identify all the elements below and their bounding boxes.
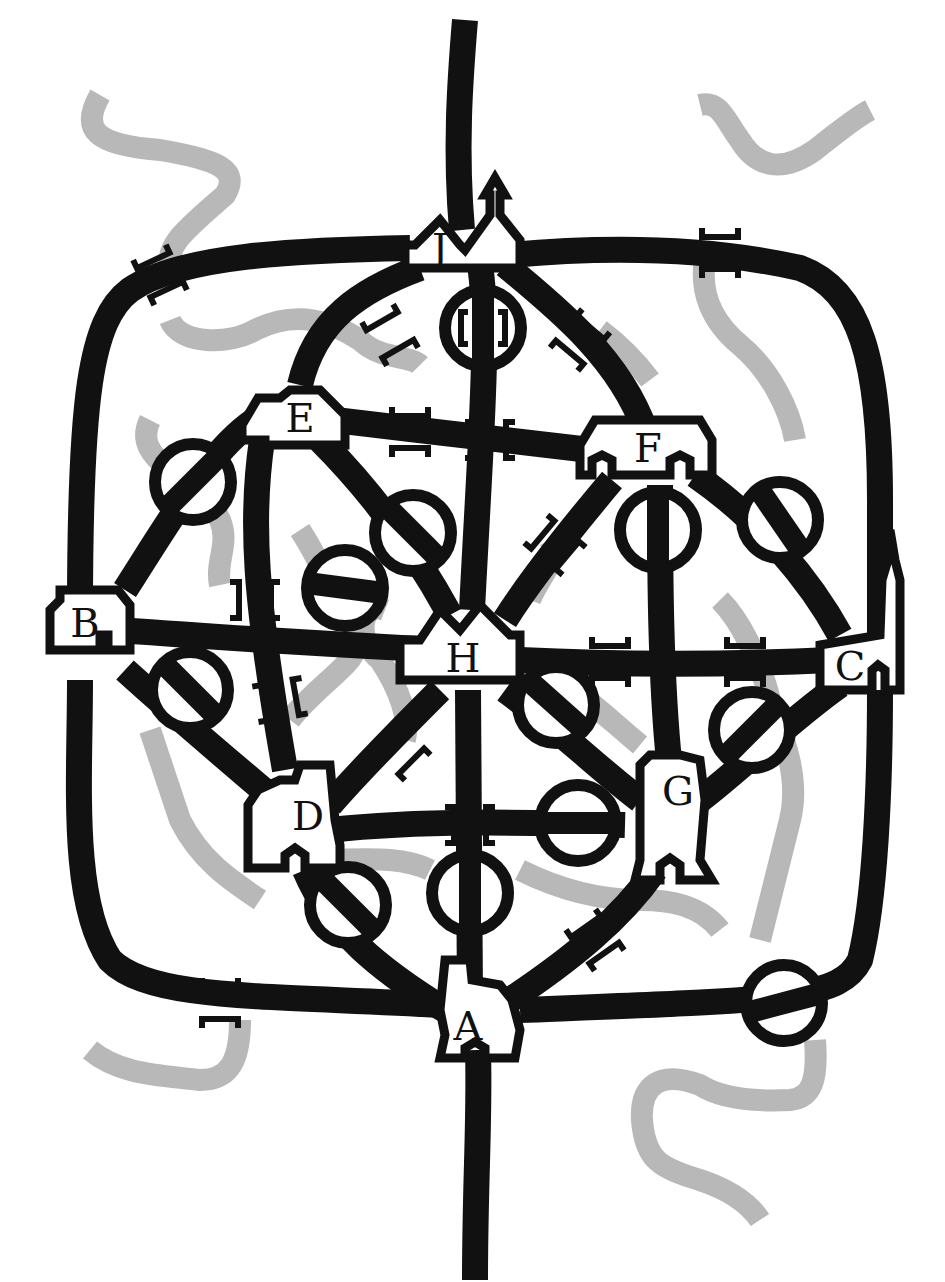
town-label-B: B [70, 600, 99, 646]
town-label-C: C [835, 643, 866, 689]
town-F: F [580, 420, 712, 475]
town-B: B [50, 590, 130, 650]
town-G: G [635, 755, 712, 880]
town-E: E [242, 390, 345, 445]
town-label-H: H [446, 635, 481, 681]
town-label-A: A [453, 1003, 484, 1049]
town-label-D: D [292, 793, 324, 839]
town-label-G: G [662, 768, 694, 814]
town-label-E: E [285, 395, 314, 441]
town-label-F: F [634, 425, 662, 471]
road-river-map: J E F B H C D G A [0, 0, 945, 1282]
